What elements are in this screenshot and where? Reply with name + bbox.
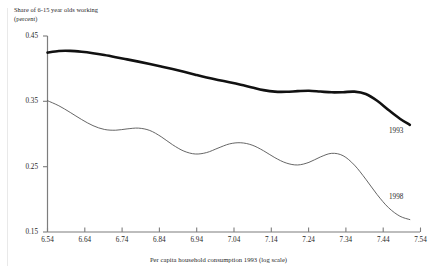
ytick-label-1: 0.35 [10, 97, 38, 105]
xtick-label-7: 7.24 [294, 236, 324, 244]
ytick-label-3: 0.15 [10, 228, 38, 236]
xtick-label-1: 6.64 [70, 236, 100, 244]
series-line-1998 [48, 101, 410, 220]
xtick-label-2: 6.74 [107, 236, 137, 244]
series-paths-group [48, 51, 410, 220]
ytick-label-0: 0.45 [10, 32, 38, 40]
xtick-label-5: 7.04 [219, 236, 249, 244]
series-label-1998: 1998 [389, 193, 403, 201]
ytick-label-2: 0.25 [10, 163, 38, 171]
xtick-label-0: 6.54 [33, 236, 63, 244]
xtick-label-3: 6.84 [144, 236, 174, 244]
chart-plot-area [0, 0, 437, 276]
y-tick-marks [43, 36, 48, 232]
series-label-1993: 1993 [389, 127, 403, 135]
xtick-label-10: 7.54 [406, 236, 436, 244]
series-line-1993 [48, 51, 410, 125]
xtick-label-9: 7.44 [368, 236, 398, 244]
xtick-label-6: 7.14 [256, 236, 286, 244]
xtick-label-4: 6.94 [182, 236, 212, 244]
chart-figure: Share of 6-15 year olds working (percent… [0, 0, 437, 276]
x-tick-marks [48, 228, 421, 233]
xaxis-title: Per capita household consumption 1993 (l… [0, 256, 437, 263]
xtick-label-8: 7.34 [331, 236, 361, 244]
